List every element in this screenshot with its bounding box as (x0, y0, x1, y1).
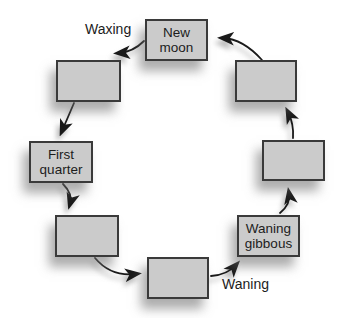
node-new-moon: New moon (145, 19, 208, 61)
moon-phase-cycle-diagram: New moon First quarter Waning gibbous Wa… (0, 0, 339, 318)
arrow-right-to-upperright (288, 112, 293, 138)
node-upper-right (235, 60, 297, 102)
arrow-waninggibbous-to-right (280, 193, 289, 213)
node-right (262, 140, 325, 181)
node-waning-gibbous: Waning gibbous (237, 215, 300, 257)
arrow-firstquarter-to-lowerleft (63, 184, 71, 204)
arrow-lowerleft-to-bottom (95, 258, 136, 274)
arrow-upperright-to-newmoon (223, 38, 262, 60)
node-new-moon-label: New moon (147, 25, 206, 55)
arrow-bottom-to-waninggibbous (211, 265, 236, 276)
node-first-quarter-label: First quarter (31, 147, 91, 177)
node-upper-left (56, 60, 121, 102)
arrow-upperleft-to-firstquarter (62, 103, 74, 131)
node-bottom (147, 257, 209, 299)
node-first-quarter: First quarter (29, 141, 93, 183)
arrow-newmoon-to-upperleft (119, 41, 144, 53)
waxing-label: Waxing (85, 21, 131, 37)
node-lower-left (55, 215, 119, 257)
node-waning-gibbous-label: Waning gibbous (239, 221, 298, 251)
waning-label: Waning (222, 276, 269, 292)
